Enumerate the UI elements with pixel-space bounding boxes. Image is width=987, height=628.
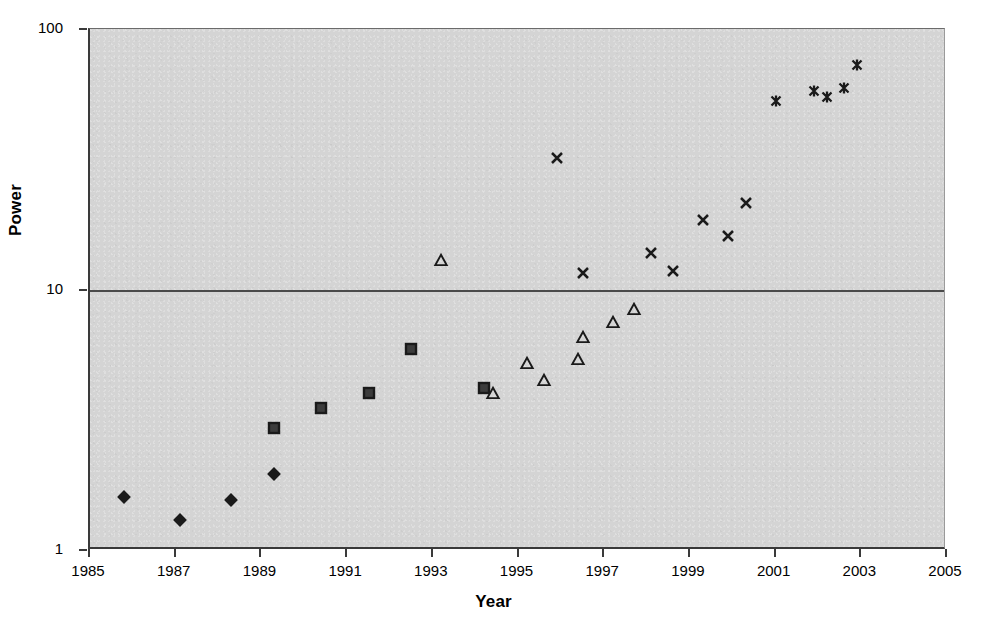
x-tick-label: 1995 [500,563,533,578]
data-point-square [362,387,375,400]
data-point-cross [721,229,735,243]
gridline-10 [90,290,944,292]
data-point-cross [576,266,590,280]
x-tick-label: 2005 [928,563,961,578]
x-tickmark [517,549,519,557]
data-point-triangle [538,373,551,386]
y-tickmark [79,289,87,291]
data-point-triangle [486,387,499,400]
data-point-triangle [576,330,589,343]
data-point-cross [696,213,710,227]
data-point-diamond [117,489,132,504]
data-point-asterisk [769,94,782,107]
x-tick-label: 1985 [71,563,104,578]
x-tick-label: 2001 [757,563,790,578]
y-tickmark [79,549,87,551]
x-tickmark [259,549,261,557]
data-point-square [478,381,491,394]
x-tick-label: 1997 [586,563,619,578]
x-tick-label: 1999 [671,563,704,578]
data-point-triangle [521,357,534,370]
data-point-diamond [224,493,239,508]
x-tickmark [345,549,347,557]
plot-area [88,28,945,549]
x-tickmark [88,549,90,557]
data-point-triangle [572,353,585,366]
x-tick-label: 2003 [843,563,876,578]
y-axis-title: Power [6,184,26,236]
data-point-cross [644,246,658,260]
x-tickmark [688,549,690,557]
data-point-cross [550,151,564,165]
chart-figure: 110100 198519871989199119931995199719992… [0,0,987,628]
data-point-diamond [267,467,282,482]
x-tickmark [774,549,776,557]
x-tick-label: 1987 [157,563,190,578]
data-point-triangle [606,316,619,329]
data-point-asterisk [851,58,864,71]
data-point-triangle [628,303,641,316]
data-point-asterisk [838,81,851,94]
y-tickmark [79,28,87,30]
data-point-square [315,402,328,415]
x-tickmark [859,549,861,557]
data-point-triangle [435,253,448,266]
data-point-asterisk [821,90,834,103]
x-tickmark [174,549,176,557]
paper-grain-texture [90,29,944,547]
x-tickmark [431,549,433,557]
data-point-square [405,343,418,356]
x-tickmark [945,549,947,557]
y-axis-ticks: 110100 [0,0,79,628]
x-tick-label: 1993 [414,563,447,578]
x-axis-title: Year [0,592,987,612]
x-tick-label: 1989 [243,563,276,578]
data-point-asterisk [808,84,821,97]
data-point-square [268,421,281,434]
data-point-cross [666,264,680,278]
x-tick-label: 1991 [328,563,361,578]
data-point-cross [739,196,753,210]
y-tick-label: 1 [55,541,63,556]
data-point-diamond [172,513,187,528]
x-tickmark [602,549,604,557]
y-tick-label: 100 [38,20,63,35]
y-tick-label: 10 [46,281,63,296]
